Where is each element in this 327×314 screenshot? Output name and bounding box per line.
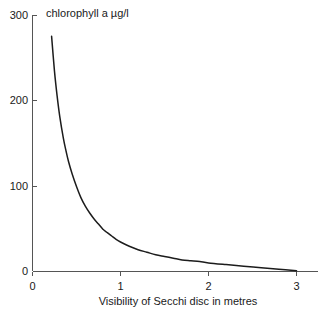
y-tick-label-200: 200 xyxy=(10,94,28,106)
chart-plot-area: 300 200 100 0 0 1 2 3 chlorophyll a µg/l… xyxy=(0,0,327,314)
chart-background xyxy=(0,0,327,314)
x-tick-label-1: 1 xyxy=(117,280,123,292)
x-tick-label-2: 2 xyxy=(205,280,211,292)
y-tick-label-100: 100 xyxy=(10,180,28,192)
x-tick-label-0: 0 xyxy=(29,280,35,292)
x-axis-title: Visibility of Secchi disc in metres xyxy=(99,295,258,307)
y-tick-label-0: 0 xyxy=(22,265,28,277)
y-tick-label-300: 300 xyxy=(10,9,28,21)
x-tick-label-3: 3 xyxy=(293,280,299,292)
chart-annotation-chlorophyll: chlorophyll a µg/l xyxy=(46,7,129,19)
chart-figure: 300 200 100 0 0 1 2 3 chlorophyll a µg/l… xyxy=(0,0,327,314)
